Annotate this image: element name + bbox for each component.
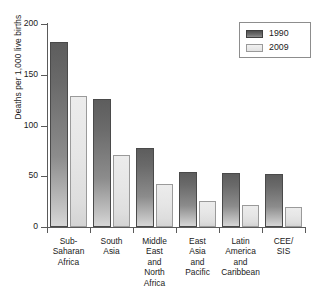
y-axis-tick-label: 200 [0,19,38,28]
bar-1990-3 [179,172,197,227]
x-axis-tick [47,228,48,233]
y-axis-tick-label: 50 [0,171,38,180]
legend-label-1990: 1990 [269,29,289,38]
y-axis-tick-label: 100 [0,121,38,130]
y-axis-tick-label: 0 [0,222,38,231]
bar-chart: Deaths per 1,000 live births 05010015020… [0,0,320,301]
x-axis-tick [90,228,91,233]
x-axis-tick [262,228,263,233]
bar-2009-4 [242,205,260,227]
bar-2009-2 [156,184,174,227]
bar-1990-4 [222,173,240,227]
bar-1990-2 [136,148,154,227]
bar-1990-1 [93,99,111,227]
legend-swatch-1990-icon [246,30,263,38]
x-axis-tick [305,228,306,233]
y-axis-tick-label: 150 [0,70,38,79]
chart-legend: 1990 2009 [239,22,311,58]
x-axis-tick [219,228,220,233]
legend-label-2009: 2009 [269,43,289,52]
x-axis-tick [176,228,177,233]
bar-1990-5 [265,174,283,227]
bar-2009-0 [70,96,88,227]
x-axis-category-label: CEE/SIS [256,236,311,257]
bar-2009-3 [199,201,217,227]
legend-entry-2009: 2009 [246,42,289,53]
legend-entry-1990: 1990 [246,28,289,39]
bar-2009-5 [285,207,303,227]
x-axis-tick [133,228,134,233]
legend-swatch-2009-icon [246,44,263,52]
bar-2009-1 [113,155,131,227]
bar-1990-0 [50,42,68,227]
